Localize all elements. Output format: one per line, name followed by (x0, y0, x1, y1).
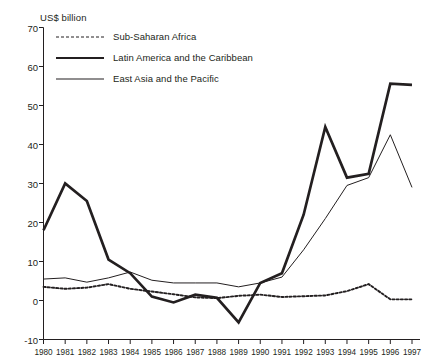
chart-container: US$ billion 706050403020100-10 198019811… (0, 0, 432, 364)
chart-legend: Sub-Saharan Africa Latin America and the… (56, 26, 253, 89)
legend-swatch-thin-line-icon (56, 74, 104, 84)
legend-item-east-asia-and-the-pacific: East Asia and the Pacific (56, 68, 253, 89)
series-line-sub-saharan-africa (44, 284, 413, 299)
legend-label: Latin America and the Caribbean (113, 52, 253, 63)
legend-item-sub-saharan-africa: Sub-Saharan Africa (56, 26, 253, 47)
legend-swatch-thick-line-icon (56, 53, 104, 63)
legend-item-latin-america-and-the-caribbean: Latin America and the Caribbean (56, 47, 253, 68)
legend-label: East Asia and the Pacific (113, 73, 219, 84)
legend-swatch-dotted-line-icon (56, 32, 104, 42)
series-line-east-asia-and-the-pacific (44, 135, 413, 287)
legend-label: Sub-Saharan Africa (113, 31, 196, 42)
